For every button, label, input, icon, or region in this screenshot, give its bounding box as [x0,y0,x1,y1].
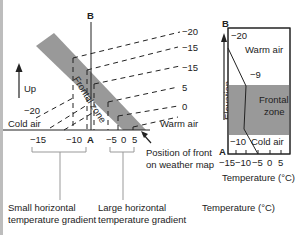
warm-air-label: Warm air [160,118,198,129]
isotherm-label-1: −20 [182,26,198,37]
elevation-arrowhead-icon [221,33,227,42]
profile-tick-minus15: −15 [219,157,235,168]
front-position-arrowhead-icon [141,131,148,138]
isotherm-label-4: 5 [182,82,187,93]
profile-tick-5: 5 [278,157,283,168]
isotherms-cold [36,98,94,130]
up-arrowhead-icon [16,63,23,72]
profile-label-a: A [219,146,226,157]
isotherm-label-3: −15 [182,62,198,73]
profile-cold-air: Cold air [251,136,284,147]
left-isotherm-label: −20 [24,105,40,116]
profile-tick-minus5: −5 [252,157,263,168]
profile-tick-minus10: −10 [235,157,251,168]
large-gradient-label-1: Large horizontal [98,202,166,213]
profile-temp-top: −20 [231,30,247,41]
x-tick-minus5: −5 [106,134,117,145]
cold-air-label: Cold air [8,118,41,129]
large-gradient-bracket [110,147,134,200]
profile-tick-0: 0 [267,157,272,168]
profile-label-b: B [222,18,229,29]
profile-x-axis-label: Temperature (°C) [222,172,295,183]
isotherm-label-5: 0 [182,101,187,112]
main-label-b: B [87,10,94,21]
small-gradient-label-1: Small horizontal [8,202,76,213]
x-tick-5: 5 [132,134,137,145]
main-label-a: A [87,134,94,145]
large-gradient-label-2: temperature gradient [98,214,187,225]
frontal-zone-diagram: B Up Frontal zone −20 −15 −15 5 0 −20 Co… [0,0,296,235]
small-gradient-label-2: temperature gradient [8,214,97,225]
front-position-label-2: on weather map [146,159,214,170]
isotherm-label-2: −15 [182,42,198,53]
x-tick-minus15: −15 [30,134,46,145]
front-position-label-1: Position of front [146,147,212,158]
profile-frontal-1: Frontal [259,94,289,105]
profile-warm-air: Warm air [245,44,283,55]
profile-temp-front-bottom: −10 [230,136,246,147]
profile-temp-front-top: −9 [250,69,261,80]
up-label: Up [24,83,36,94]
profile-frontal-2: zone [264,106,285,117]
x-tick-0: 0 [121,134,126,145]
small-gradient-bracket [32,147,86,200]
x-tick-minus10: −10 [66,134,82,145]
footer-temperature-label: Temperature (°C) [202,202,275,213]
